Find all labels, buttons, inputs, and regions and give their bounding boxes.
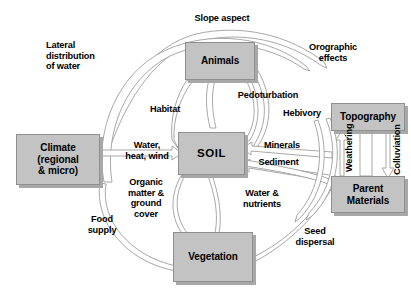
- node-parent-materials-label: Parent Materials: [345, 183, 391, 206]
- edge-label-orographic-effects: Orographic effects: [297, 42, 369, 63]
- node-animals-label: Animals: [199, 55, 241, 67]
- node-soil-label: SOIL: [195, 148, 228, 160]
- node-animals[interactable]: Animals: [185, 42, 255, 80]
- node-vegetation[interactable]: Vegetation: [173, 232, 253, 282]
- node-vegetation-label: Vegetation: [186, 251, 240, 263]
- edge-label-colluviation: Colluviation: [392, 124, 402, 175]
- node-soil[interactable]: SOIL: [178, 132, 245, 175]
- edge-label-habitat: Habitat: [141, 104, 189, 115]
- edge-label-sediment: Sediment: [251, 157, 306, 168]
- edge-label-hebivory: Hebivory: [275, 108, 329, 119]
- edge-label-organic-matter: Organic matter & ground cover: [118, 177, 174, 219]
- node-climate[interactable]: Climate (regional & micro): [16, 134, 100, 185]
- connector-topo-parent-center: [360, 131, 372, 176]
- edge-label-food-supply: Food supply: [80, 214, 124, 235]
- soil-factors-diagram: Animals Climate (regional & micro) SOIL …: [0, 0, 411, 301]
- node-climate-label: Climate (regional & micro): [35, 142, 80, 177]
- connector-hebivory: [243, 72, 258, 144]
- edge-label-lateral-distribution: Lateral distribution of water: [46, 40, 120, 72]
- edge-label-water-nutrients: Water & nutrients: [234, 188, 290, 209]
- edge-label-weathering: Weathering: [344, 124, 354, 172]
- node-topography-label: Topography: [338, 111, 398, 123]
- edge-label-minerals: Minerals: [256, 140, 308, 151]
- node-parent-materials[interactable]: Parent Materials: [331, 176, 405, 213]
- edge-label-water-heat-wind: Water, heat, wind: [116, 140, 178, 161]
- edge-label-pedoturbation: Pedoturbation: [228, 90, 308, 101]
- edge-label-slope-aspect: Slope aspect: [182, 13, 262, 24]
- edge-label-seed-dispersal: Seed dispersal: [286, 226, 344, 247]
- connector-soil-to-animals: [206, 80, 216, 128]
